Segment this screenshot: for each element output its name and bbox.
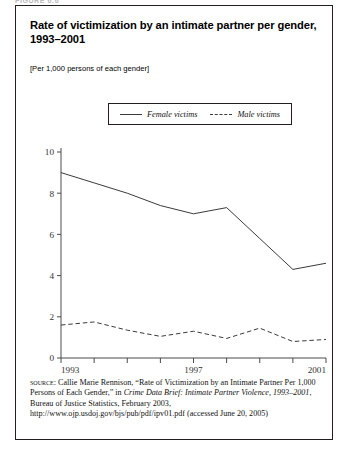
legend-label-male: Male victims (237, 110, 280, 119)
chart-subtitle: [Per 1,000 persons of each gender] (30, 64, 320, 73)
figure-number-label: FIGURE 6.6 (15, 0, 59, 4)
legend-item-male: Male victims (210, 110, 280, 119)
figure-container: FIGURE 6.6 Rate of victimization by an i… (0, 0, 348, 453)
y-axis-tick-label: 2 (49, 312, 54, 322)
data-line-female-victims (61, 173, 326, 270)
line-chart-svg: 0246810199319972001 (16, 136, 334, 376)
legend-label-female: Female victims (147, 110, 197, 119)
x-axis-tick-label: 2001 (308, 365, 327, 375)
chart-legend: Female victims Male victims (108, 103, 292, 125)
source-keyword: source: (30, 378, 56, 387)
y-axis-tick-label: 4 (49, 271, 54, 281)
data-line-male-victims (61, 322, 326, 342)
source-note: source: Callie Marie Rennison, “Rate of … (30, 378, 322, 420)
plot-area: 0246810199319972001 (16, 136, 334, 376)
x-axis-tick-label: 1997 (184, 365, 203, 375)
legend-line-dashed-icon (210, 114, 232, 115)
x-axis-tick-label: 1993 (61, 365, 80, 375)
legend-line-solid-icon (120, 114, 142, 115)
legend-item-female: Female victims (120, 110, 197, 119)
y-axis-tick-label: 10 (45, 147, 55, 157)
y-axis-tick-label: 6 (49, 230, 54, 240)
figure-frame: Rate of victimization by an intimate par… (15, 5, 333, 440)
chart-title: Rate of victimization by an intimate par… (30, 18, 320, 46)
y-axis-tick-label: 0 (49, 353, 54, 363)
source-title-italic: Crime Data Brief: Intimate Partner Viole… (124, 388, 310, 397)
y-axis-tick-label: 8 (49, 189, 54, 199)
